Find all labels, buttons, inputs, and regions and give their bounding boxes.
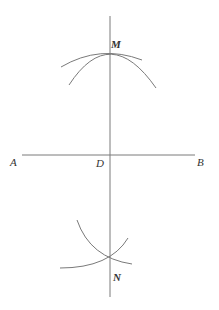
arc-lower-from-upper-left	[77, 220, 132, 264]
label-point-a: A	[10, 157, 17, 168]
arc-lower-from-left	[60, 238, 128, 268]
arc-upper-steep	[69, 54, 156, 88]
geometry-diagram	[0, 0, 219, 310]
label-point-n: N	[113, 272, 121, 283]
label-point-d: D	[96, 158, 104, 169]
label-point-m: M	[111, 39, 121, 50]
label-point-b: B	[197, 157, 204, 168]
